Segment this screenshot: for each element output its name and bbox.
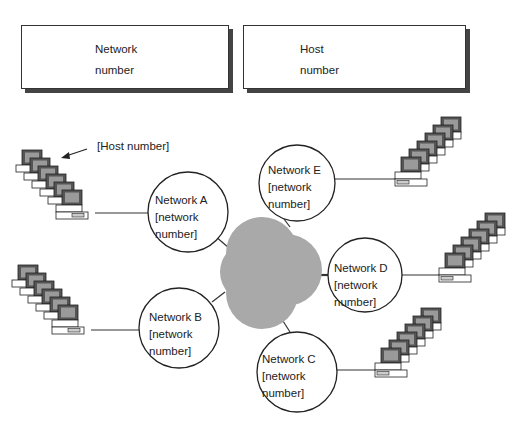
network-c-line2: [network — [262, 370, 306, 382]
network-diagram: [Host number] Network A [network number]… — [0, 0, 528, 424]
hosts-network-e — [395, 117, 461, 186]
network-d-name: Network D — [334, 262, 388, 274]
arrow-icon — [61, 149, 87, 159]
network-c: Network C [network number] — [257, 332, 337, 412]
internet-cloud — [220, 217, 322, 329]
hosts-network-b — [12, 265, 84, 334]
network-a-name: Network A — [155, 194, 208, 206]
hosts-network-d — [439, 213, 505, 282]
hosts-network-c — [375, 308, 441, 377]
network-c-line3: number] — [262, 387, 304, 399]
host-number-annotation: [Host number] — [97, 140, 169, 152]
network-a-line3: number] — [155, 228, 197, 240]
network-b: Network B [network number] — [139, 288, 219, 368]
network-e-line2: [network — [268, 181, 312, 193]
network-d-line2: [network — [334, 279, 378, 291]
network-e-name: Network E — [268, 164, 321, 176]
network-e-line3: number] — [268, 198, 310, 210]
network-d-line3: number] — [334, 296, 376, 308]
network-a: Network A [network number] — [148, 172, 228, 252]
network-b-line2: [network — [149, 328, 193, 340]
network-a-line2: [network — [155, 211, 199, 223]
hosts-network-a — [16, 150, 88, 219]
network-d: Network D [network number] — [328, 238, 402, 312]
network-e: Network E [network number] — [259, 145, 335, 221]
network-b-line3: number] — [149, 345, 191, 357]
network-b-name: Network B — [149, 311, 202, 323]
network-c-name: Network C — [262, 353, 316, 365]
